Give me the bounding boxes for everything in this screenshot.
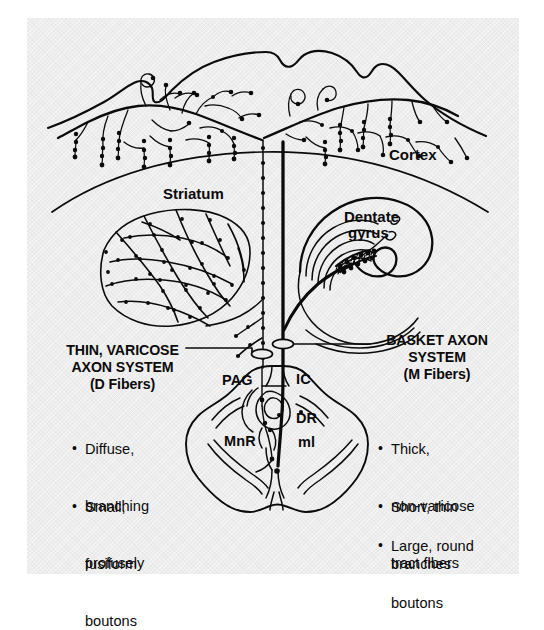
label-dr: DR	[296, 410, 317, 426]
label-dentate-gyrus-line2: gyrus	[348, 225, 389, 242]
label-ml: ml	[298, 434, 315, 450]
varicosity-beads-left	[73, 76, 262, 170]
label-striatum: Striatum	[163, 186, 224, 203]
left-heading-line3: (D Fibers)	[55, 376, 190, 393]
left-heading-line2: AXON SYSTEM	[55, 359, 190, 376]
striatum-varicosities	[104, 217, 246, 319]
right-bullet-1-line-1: Thick,	[378, 440, 508, 459]
left-bullet-2-line-1: Small,	[72, 498, 192, 517]
right-heading-line1: BASKET AXON	[372, 332, 502, 349]
left-heading-line1: THIN, VARICOSE	[55, 342, 190, 359]
right-bullet-3: Large, round boutons	[378, 499, 508, 630]
left-bullet-2-line-3: boutons	[72, 612, 192, 630]
right-bullet-3-line-1: Large, round	[378, 537, 508, 556]
left-bullet-1-line-1: Diffuse,	[72, 440, 192, 459]
d-fiber-marker-ellipse	[252, 349, 273, 358]
right-bullet-3-line-2: boutons	[378, 594, 508, 613]
right-heading-line2: SYSTEM	[372, 349, 502, 366]
label-mnr: MnR	[224, 433, 256, 449]
cortical-terminal-branches-right	[286, 86, 467, 162]
label-ic: IC	[296, 371, 311, 387]
m-fiber-hippocampal-branch	[284, 264, 352, 330]
right-heading-line3: (M Fibers)	[372, 366, 502, 383]
label-cortex: Cortex	[389, 147, 437, 164]
brainstem-outline	[186, 366, 368, 512]
left-bullet-2-line-2: fusiform	[72, 555, 192, 574]
d-fiber-lower-beads	[234, 325, 252, 358]
d-fiber-trunk-varicosities	[261, 146, 265, 360]
left-bullet-2: Small, fusiform boutons	[72, 460, 192, 630]
label-pag: PAG	[222, 372, 253, 388]
m-fiber-marker-ellipse	[273, 339, 294, 348]
